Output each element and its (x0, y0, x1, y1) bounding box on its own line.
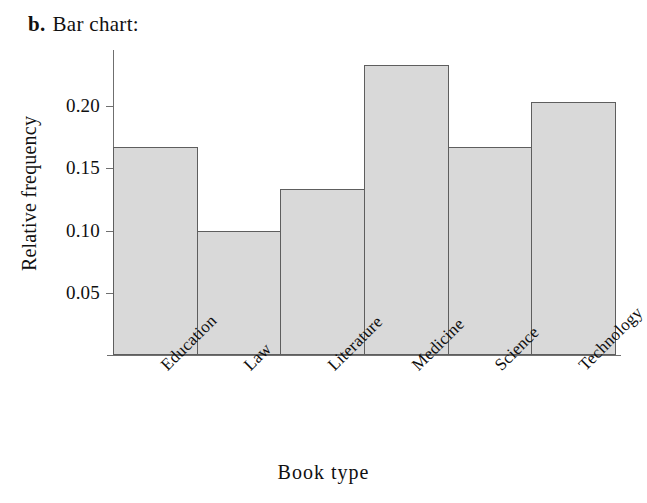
page-title: b.Bar chart: (28, 12, 139, 37)
bar (364, 65, 449, 355)
plot-area (113, 50, 620, 355)
y-axis-tick-label: 0.10 (40, 221, 100, 240)
bar (113, 147, 198, 355)
x-axis-title: Book type (0, 461, 647, 484)
y-axis-tick-label: 0.20 (40, 96, 100, 115)
bar (280, 189, 365, 355)
title-text: Bar chart: (53, 12, 139, 36)
y-axis-tick-label: 0.05 (40, 283, 100, 302)
bar (531, 102, 616, 355)
y-axis-title: Relative frequency (18, 99, 41, 289)
y-axis-tick-label: 0.15 (40, 158, 100, 177)
title-label-marker: b. (28, 12, 46, 36)
